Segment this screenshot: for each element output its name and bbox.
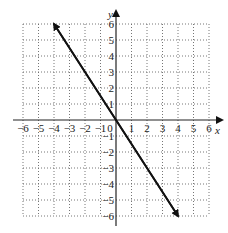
- x-tick-label: −5: [33, 122, 45, 134]
- y-tick-label: 4: [109, 50, 115, 62]
- y-tick-label: −2: [102, 146, 114, 158]
- x-tick-label: −6: [17, 122, 29, 134]
- coordinate-plane: −6−5−4−3−2−10123456654321−1−2−3−4−5−6 x …: [0, 0, 228, 233]
- x-tick-label: 3: [160, 122, 166, 134]
- x-tick-label: 2: [144, 122, 150, 134]
- y-tick-label: −1: [102, 130, 114, 142]
- y-tick-label: 5: [109, 34, 115, 46]
- x-tick-label: −2: [79, 122, 91, 134]
- x-tick-label: 5: [191, 122, 197, 134]
- x-axis-label: x: [214, 124, 220, 136]
- x-tick-label: 6: [206, 122, 212, 134]
- y-tick-label: 2: [109, 82, 115, 94]
- x-tick-label: −4: [48, 122, 60, 134]
- y-tick-label: −3: [102, 162, 114, 174]
- y-tick-label: −5: [102, 194, 114, 206]
- x-tick-label: 1: [129, 122, 135, 134]
- y-axis-label: y: [107, 8, 113, 20]
- y-tick-label: −4: [102, 178, 114, 190]
- axes: [13, 11, 222, 226]
- x-tick-label: −3: [64, 122, 76, 134]
- y-tick-label: −6: [102, 210, 114, 222]
- x-tick-label: 4: [175, 122, 181, 134]
- y-tick-label: 3: [109, 66, 115, 78]
